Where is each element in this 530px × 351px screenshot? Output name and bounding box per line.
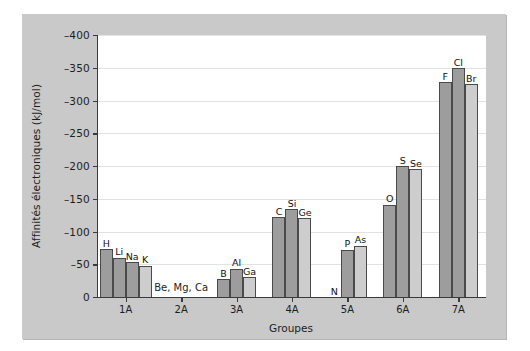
bar[interactable] — [439, 82, 452, 297]
x-axis-title: Groupes — [97, 322, 485, 334]
bar[interactable] — [396, 166, 409, 297]
y-axis-tick-label: –100 — [64, 226, 90, 238]
bar-item[interactable]: As — [354, 246, 367, 297]
bar-item[interactable]: Li — [113, 258, 126, 297]
bar-value-label: N — [331, 287, 338, 297]
bar-value-label: Ga — [243, 267, 256, 277]
y-axis-tick — [93, 297, 98, 298]
y-axis-tick-label: –400 — [64, 29, 90, 41]
bar-group: Be, Mg, Ca2A — [153, 35, 208, 297]
bar[interactable] — [409, 169, 422, 297]
y-axis-tick-label: –300 — [64, 95, 90, 107]
bar-group-bars: CSiGe — [264, 35, 319, 297]
bar-value-label: Na — [126, 252, 139, 262]
y-axis-tick-label: –50 — [71, 258, 90, 270]
bar[interactable] — [217, 279, 230, 297]
bar-item[interactable]: Ge — [298, 218, 311, 297]
bar[interactable] — [100, 249, 113, 297]
bar[interactable] — [285, 209, 298, 297]
bar-item[interactable]: Se — [409, 169, 422, 297]
bar-value-label: Al — [232, 258, 241, 268]
x-axis-tick — [237, 297, 238, 302]
group-note: Be, Mg, Ca — [154, 282, 208, 293]
plot-area: 0–50–100–150–200–250–300–350–400 HLiNaK1… — [97, 35, 486, 298]
bar-value-label: H — [103, 239, 110, 249]
bar-item[interactable]: Cl — [452, 68, 465, 297]
y-axis-title: Affinités électroniques (kJ/mol) — [30, 35, 46, 297]
chart-figure: Affinités électroniques (kJ/mol) 0–50–10… — [0, 0, 530, 351]
bar-group-bars: Be, Mg, Ca — [153, 35, 208, 297]
bar[interactable] — [341, 250, 354, 297]
bar-value-label: S — [400, 156, 406, 166]
y-axis-tick-label: –250 — [64, 127, 90, 139]
bar-group: OSSe6A — [375, 35, 430, 297]
bar-value-label: Cl — [454, 58, 463, 68]
bar[interactable] — [139, 266, 152, 297]
x-axis-group-label: 6A — [375, 304, 430, 315]
bar-item[interactable]: Br — [465, 84, 478, 297]
bar-group-bars: OSSe — [375, 35, 430, 297]
bar[interactable] — [452, 68, 465, 297]
y-axis-tick-label: –150 — [64, 193, 90, 205]
x-axis-tick — [347, 297, 348, 302]
x-axis-group-label: 7A — [431, 304, 486, 315]
bar-value-label: Se — [410, 159, 422, 169]
bar-group-bars: BAlGa — [209, 35, 264, 297]
bar-value-label: Br — [466, 74, 476, 84]
bar-item[interactable]: Ga — [243, 277, 256, 297]
bar-group-bars: HLiNaK — [98, 35, 153, 297]
bar-item[interactable]: C — [272, 217, 285, 297]
bar-group-bars: FClBr — [431, 35, 486, 297]
bar[interactable] — [383, 205, 396, 297]
bar-item[interactable]: F — [439, 82, 452, 297]
y-axis-tick-label: –200 — [64, 160, 90, 172]
bar[interactable] — [126, 262, 139, 297]
bar[interactable] — [113, 258, 126, 297]
bar-item[interactable]: Na — [126, 262, 139, 297]
x-axis-group-label: 4A — [264, 304, 319, 315]
x-axis-tick — [458, 297, 459, 302]
bar-group: HLiNaK1A — [98, 35, 153, 297]
x-axis-tick — [126, 297, 127, 302]
bar-value-label: Li — [115, 247, 123, 257]
bar-item[interactable]: Al — [230, 269, 243, 297]
bar-value-label: As — [355, 235, 366, 245]
bar-value-label: Ge — [298, 208, 311, 218]
bar-value-label: F — [443, 72, 448, 82]
x-axis-tick — [403, 297, 404, 302]
bar-value-label: O — [386, 194, 393, 204]
bar-item[interactable]: S — [396, 166, 409, 297]
bar[interactable] — [298, 218, 311, 297]
y-axis-tick-label: –350 — [64, 62, 90, 74]
bar-item[interactable]: B — [217, 279, 230, 297]
x-axis-group-label: 2A — [153, 304, 208, 315]
bar[interactable] — [465, 84, 478, 297]
bar-item[interactable]: K — [139, 266, 152, 297]
y-axis-tick-label: 0 — [83, 291, 90, 303]
bar[interactable] — [230, 269, 243, 297]
bar-item[interactable]: H — [100, 249, 113, 297]
bar-value-label: P — [345, 239, 351, 249]
bar-value-label: C — [276, 207, 283, 217]
bar-group: BAlGa3A — [209, 35, 264, 297]
x-axis-group-label: 3A — [209, 304, 264, 315]
bar[interactable] — [354, 246, 367, 297]
bar-item[interactable]: Si — [285, 209, 298, 297]
bar-group: NPAs5A — [320, 35, 375, 297]
x-axis-group-label: 1A — [98, 304, 153, 315]
bar-value-label: K — [142, 255, 148, 265]
x-axis-tick — [181, 297, 182, 302]
bar[interactable] — [272, 217, 285, 297]
bar-value-label: Si — [288, 199, 297, 209]
bar-group-bars: NPAs — [320, 35, 375, 297]
bar-item[interactable]: P — [341, 250, 354, 297]
bar-value-label: B — [220, 269, 227, 279]
bar-group: CSiGe4A — [264, 35, 319, 297]
x-axis-tick — [292, 297, 293, 302]
bar[interactable] — [243, 277, 256, 297]
bar-item[interactable]: O — [383, 205, 396, 297]
x-axis-group-label: 5A — [320, 304, 375, 315]
bar-group: FClBr7A — [431, 35, 486, 297]
